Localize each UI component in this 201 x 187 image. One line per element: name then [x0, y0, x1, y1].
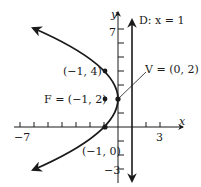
- y-tick-max: 7: [109, 26, 116, 39]
- point-neg1-4: [103, 69, 108, 74]
- directrix-label: D: x = 1: [139, 14, 184, 27]
- parabola-diagram: y x 7 −3 −7 3 D: x = 1 V = (0, 2) F = (−…: [0, 0, 201, 187]
- point-neg1-0-label: (−1, 0): [82, 145, 121, 158]
- x-axis: [14, 122, 183, 127]
- point-neg1-0: [102, 124, 107, 129]
- focus-label: F = (−1, 2): [44, 93, 107, 106]
- point-neg1-4-label: (−1, 4): [63, 65, 102, 78]
- y-axis-label: y: [110, 8, 118, 21]
- x-tick-min: −7: [14, 131, 30, 144]
- y-tick-min: −3: [104, 164, 120, 177]
- vertex-point: [115, 96, 120, 101]
- x-axis-label: x: [179, 115, 186, 128]
- x-tick-max: 3: [156, 131, 163, 144]
- vertex-label: V = (0, 2): [144, 63, 199, 76]
